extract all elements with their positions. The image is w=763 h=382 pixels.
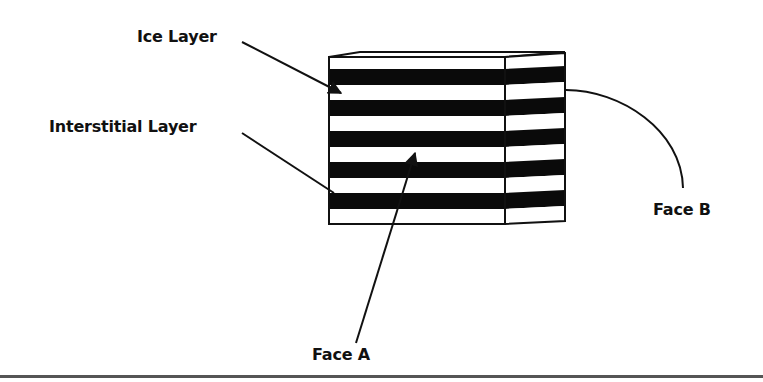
face-a-stripes (329, 57, 505, 224)
ice-layer-leader (242, 42, 341, 93)
ice-layer-label: Ice Layer (137, 27, 217, 46)
bottom-border-line (0, 375, 763, 378)
face-b-leader (566, 90, 683, 188)
face-a-label: Face A (312, 345, 370, 364)
diagram-drawing (0, 0, 763, 382)
ice-layer-diagram: Ice Layer Interstitial Layer Face B Face… (0, 0, 763, 382)
interstitial-layer-leader (242, 133, 334, 193)
interstitial-layer-label: Interstitial Layer (49, 117, 196, 136)
face-b-stripes (505, 54, 565, 224)
face-b-label: Face B (653, 200, 711, 219)
